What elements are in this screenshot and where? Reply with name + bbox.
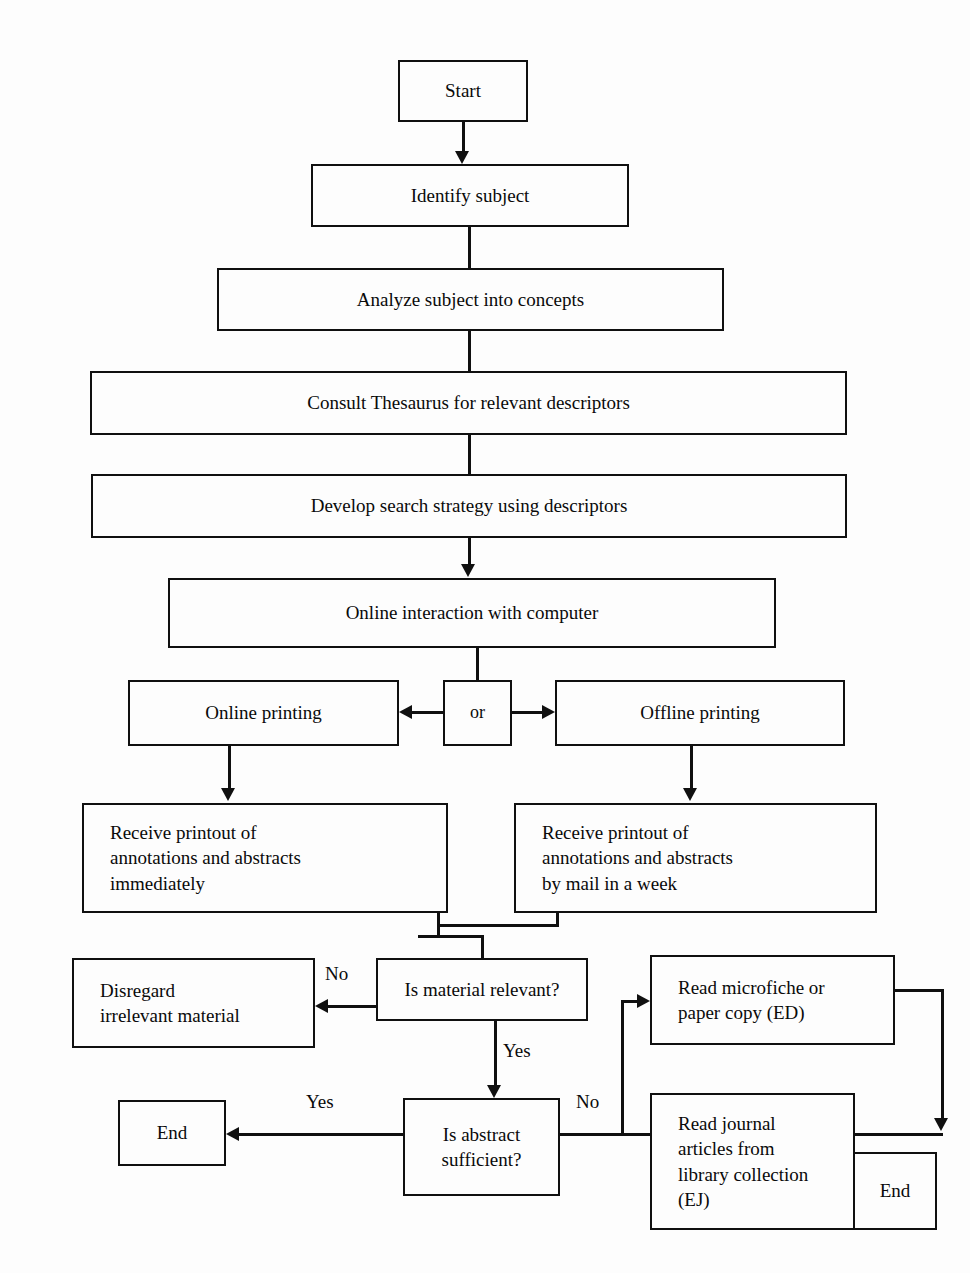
node-online-printing[interactable]: Online printing (128, 680, 399, 746)
connector-start-to-identify (462, 122, 465, 154)
connector-abstract-no-out (560, 1133, 650, 1136)
connector-microfiche-down-to-end (941, 989, 944, 1119)
node-read-journal-articles-label: Read journal articles from library colle… (652, 1111, 818, 1211)
node-or-label: or (460, 701, 495, 725)
edge-label-abstract-no: No (576, 1091, 599, 1113)
arrowhead-printout-now (221, 788, 235, 801)
node-or[interactable]: or (443, 680, 512, 746)
connector-identify-to-analyze (468, 227, 471, 268)
connector-online-printing-to-printout-now (228, 746, 231, 790)
arrowhead-online-printing (399, 705, 412, 719)
node-is-material-relevant-label: Is material relevant? (394, 977, 569, 1002)
arrowhead-read-microfiche (637, 994, 650, 1008)
edge-label-abstract-yes: Yes (306, 1091, 334, 1113)
arrowhead-online-interaction (461, 564, 475, 577)
arrowhead-disregard (315, 999, 328, 1013)
node-receive-printout-immediately[interactable]: Receive printout of annotations and abst… (82, 803, 448, 913)
connector-strategy-to-online-interaction (468, 538, 471, 565)
node-start[interactable]: Start (398, 60, 528, 122)
node-online-interaction[interactable]: Online interaction with computer (168, 578, 776, 648)
node-receive-printout-by-mail[interactable]: Receive printout of annotations and abst… (514, 803, 877, 913)
arrowhead-printout-mail (683, 788, 697, 801)
arrowhead-end-left (226, 1127, 239, 1141)
connector-riser-to-microfiche (621, 1000, 637, 1003)
node-online-printing-label: Online printing (195, 700, 332, 725)
connector-online-interaction-to-or (476, 648, 479, 680)
node-analyze-subject-label: Analyze subject into concepts (347, 287, 594, 312)
node-identify-subject[interactable]: Identify subject (311, 164, 629, 227)
node-receive-printout-immediately-label: Receive printout of annotations and abst… (84, 820, 311, 895)
arrowhead-is-abstract (487, 1085, 501, 1098)
connector-offline-printing-to-printout-mail (690, 746, 693, 790)
connector-microfiche-out-right (895, 989, 943, 992)
node-is-abstract-sufficient[interactable]: Is abstract sufficient? (403, 1098, 560, 1196)
node-online-interaction-label: Online interaction with computer (336, 600, 609, 625)
arrowhead-offline-printing (542, 705, 555, 719)
node-read-microfiche[interactable]: Read microfiche or paper copy (ED) (650, 955, 895, 1045)
node-identify-subject-label: Identify subject (401, 183, 540, 208)
connector-journal-to-end-right (855, 1133, 943, 1136)
node-consult-thesaurus[interactable]: Consult Thesaurus for relevant descripto… (90, 371, 847, 435)
arrowhead-end-right-from-microfiche (934, 1118, 948, 1131)
node-end-left[interactable]: End (118, 1100, 226, 1166)
connector-merge-to-is-relevant (481, 935, 484, 958)
connector-printout-merge-bar-right (437, 924, 559, 927)
connector-printout-merge-bar (418, 935, 483, 938)
node-develop-strategy[interactable]: Develop search strategy using descriptor… (91, 474, 847, 538)
node-disregard-irrelevant-label: Disregard irrelevant material (74, 978, 250, 1028)
arrowhead-identify (455, 151, 469, 164)
connector-no-riser-to-microfiche (621, 1000, 624, 1135)
flowchart-canvas: Start Identify subject Analyze subject i… (0, 0, 970, 1273)
node-end-right-label: End (870, 1178, 921, 1203)
connector-or-to-offline-printing (512, 711, 542, 714)
node-read-microfiche-label: Read microfiche or paper copy (ED) (652, 975, 835, 1025)
node-consult-thesaurus-label: Consult Thesaurus for relevant descripto… (297, 390, 640, 415)
connector-thesaurus-to-strategy (468, 435, 471, 474)
edge-label-relevant-no: No (325, 963, 348, 985)
node-end-right[interactable]: End (853, 1152, 937, 1230)
connector-abstract-yes-to-end (239, 1133, 403, 1136)
node-offline-printing[interactable]: Offline printing (555, 680, 845, 746)
edge-label-relevant-yes: Yes (503, 1040, 531, 1062)
connector-relevant-no-to-disregard (328, 1005, 376, 1008)
node-start-label: Start (435, 78, 491, 103)
node-is-material-relevant[interactable]: Is material relevant? (376, 958, 588, 1021)
connector-analyze-to-thesaurus (468, 331, 471, 371)
node-analyze-subject[interactable]: Analyze subject into concepts (217, 268, 724, 331)
connector-relevant-yes (494, 1021, 497, 1086)
node-disregard-irrelevant[interactable]: Disregard irrelevant material (72, 958, 315, 1048)
node-read-journal-articles[interactable]: Read journal articles from library colle… (650, 1093, 855, 1230)
node-develop-strategy-label: Develop search strategy using descriptor… (301, 493, 638, 518)
node-is-abstract-sufficient-label: Is abstract sufficient? (432, 1122, 532, 1172)
node-end-left-label: End (147, 1120, 198, 1145)
node-receive-printout-by-mail-label: Receive printout of annotations and abst… (516, 820, 743, 895)
connector-or-to-online-printing (412, 711, 443, 714)
node-offline-printing-label: Offline printing (630, 700, 769, 725)
